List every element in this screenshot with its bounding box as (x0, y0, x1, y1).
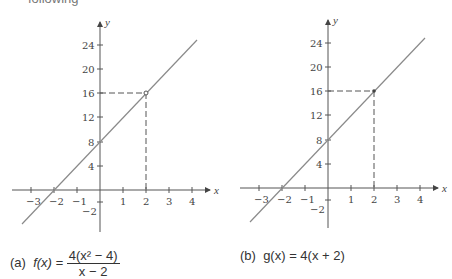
filled-point-marker (372, 89, 376, 93)
y-tick-label: 16 (310, 86, 323, 97)
x-tick-label: −2 (49, 196, 64, 207)
caption-a-lhs: f(x) = (33, 255, 63, 270)
y-tick-label: 24 (310, 38, 323, 49)
x-tick-label: −2 (277, 194, 292, 205)
y-tick-label: 16 (82, 88, 95, 99)
x-tick-label: 4 (417, 194, 423, 205)
open-point-marker (144, 91, 148, 95)
chart-a: x y −3 −2 −1 1 2 3 4 24 20 16 12 8 4 −2 (12, 16, 219, 232)
y-tick-label: 4 (316, 159, 322, 170)
y-tick-label: 12 (310, 110, 323, 121)
y-tick-label: −2 (82, 206, 97, 217)
fraction-denominator: x − 2 (67, 264, 120, 279)
x-tick-label: 3 (394, 194, 400, 205)
chart-b: x y −3 −2 −1 1 2 3 4 24 20 16 12 8 4 −2 (240, 14, 447, 228)
y-tick-label: 8 (316, 135, 322, 146)
y-tick-label: 8 (88, 137, 94, 148)
y-tick-label: 20 (310, 62, 323, 73)
caption-b: (b) g(x) = 4(x + 2) (240, 248, 345, 263)
x-tick-label: −3 (254, 194, 269, 205)
x-axis-label: x (441, 182, 447, 194)
y-tick-label: 24 (82, 40, 95, 51)
x-tick-label: 1 (120, 196, 126, 207)
y-axis-label: y (332, 14, 338, 26)
y-tick-label: 12 (82, 112, 95, 123)
x-tick-label: 1 (348, 194, 354, 205)
caption-b-equation: g(x) = 4(x + 2) (263, 248, 345, 263)
x-tick-label: 2 (143, 196, 149, 207)
y-tick-label: 4 (88, 161, 94, 172)
y-tick-label: −2 (310, 204, 325, 215)
caption-a-label: (a) (10, 255, 26, 270)
caption-a-fraction: 4(x² − 4) x − 2 (67, 248, 120, 279)
y-axis-label: y (104, 16, 110, 28)
x-tick-label: −3 (26, 196, 41, 207)
x-tick-label: 2 (371, 194, 377, 205)
y-tick-label: 20 (82, 64, 95, 75)
x-tick-label: 4 (189, 196, 195, 207)
x-axis-label: x (213, 184, 219, 196)
fraction-numerator: 4(x² − 4) (67, 248, 120, 264)
caption-b-label: (b) (240, 248, 256, 263)
x-tick-label: 3 (166, 196, 172, 207)
caption-a: (a) f(x) = 4(x² − 4) x − 2 (10, 248, 120, 279)
